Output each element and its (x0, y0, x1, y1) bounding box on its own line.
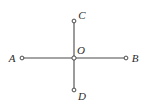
point-marker-c (72, 19, 76, 23)
point-label-c: C (78, 9, 86, 21)
point-marker-b (124, 56, 128, 60)
point-label-a: A (8, 52, 16, 64)
point-label-d: D (77, 90, 86, 102)
point-label-b: B (132, 52, 139, 64)
geometry-figure: A B C D O (0, 0, 147, 105)
point-label-o: O (77, 44, 85, 56)
point-marker-a (20, 56, 24, 60)
diagram-canvas: A B C D O (0, 0, 147, 105)
point-marker-o (72, 56, 76, 60)
point-marker-d (72, 88, 76, 92)
